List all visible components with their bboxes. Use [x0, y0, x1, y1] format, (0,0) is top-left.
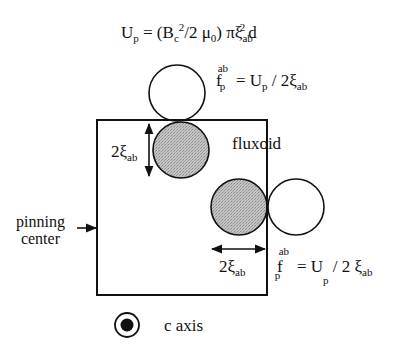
force-xi-sub: ab — [297, 80, 307, 92]
pinning-line1: pinning — [16, 213, 65, 230]
force-sub: p — [220, 81, 226, 92]
top-pinned-fluxoid-circle — [153, 122, 209, 178]
fluxoid-label: fluxoid — [232, 135, 281, 152]
c-axis-label: c axis — [164, 317, 203, 334]
pinning-line2: center — [16, 230, 65, 247]
bforce-u: = U — [293, 257, 323, 276]
eq-bc-sub: c — [174, 32, 179, 44]
vertical-dimension-label: 2ξab — [111, 143, 137, 163]
eq-xi-sup: 2 — [240, 21, 246, 33]
right-outside-fluxoid-circle — [268, 179, 324, 235]
force-indices: abp — [218, 72, 232, 88]
bforce-indices: abp — [279, 258, 293, 274]
pinning-energy-equation: Up = (Bc2/2 μ0) πξab2d — [121, 22, 257, 44]
c-axis-out-of-plane-icon — [115, 313, 139, 337]
top-pinning-force-equation: fabp = Up / 2ξab — [216, 72, 307, 92]
pinning-center-label: pinning center — [16, 213, 65, 247]
horizontal-dimension-label: 2ξab — [219, 258, 245, 278]
eq-mu: /2 μ — [184, 23, 211, 42]
vdim-sub: ab — [127, 151, 137, 163]
bottom-pinning-force-equation: fabp = Up / 2 ξab — [277, 258, 373, 286]
hdim-text: 2ξ — [219, 257, 235, 276]
bforce-xi-sub: ab — [362, 266, 372, 278]
force-sup: ab — [218, 63, 228, 74]
force-xi: / 2ξ — [268, 71, 297, 90]
bforce-sup: ab — [279, 246, 289, 257]
vdim-text: 2ξ — [111, 142, 127, 161]
eq-bc: = (B — [139, 23, 174, 42]
pinning-diagram — [0, 0, 400, 355]
hdim-sub: ab — [235, 266, 245, 278]
force-u: = U — [232, 71, 262, 90]
top-outside-fluxoid-circle — [149, 65, 205, 121]
bforce-sub: p — [275, 270, 281, 281]
bforce-xi: / 2 ξ — [329, 257, 363, 276]
eq-xi: ) πξ — [216, 23, 242, 42]
eq-u: U — [121, 23, 133, 42]
eq-d: d — [248, 23, 257, 42]
right-pinned-fluxoid-circle — [211, 179, 267, 235]
